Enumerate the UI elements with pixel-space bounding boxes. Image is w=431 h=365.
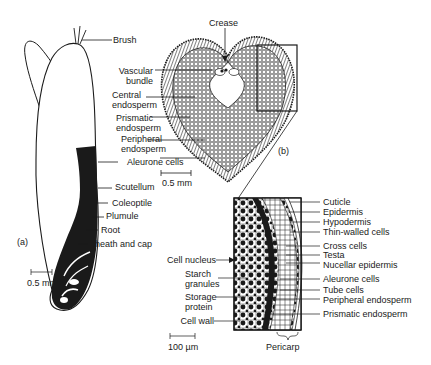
label-crease: Crease (209, 18, 238, 28)
label-starch: Starch (185, 269, 211, 279)
label-peripheral-endosperm-c: Peripheral endosperm (323, 295, 412, 305)
label-sheath-and-cap: Sheath and cap (89, 239, 152, 249)
label-peripheral-endosperm: endosperm (121, 144, 166, 154)
label-cell-nucleus: Cell nucleus (150, 255, 216, 265)
label-testa: Testa (323, 250, 345, 260)
label-prismatic-endosperm-c: Prismatic endosperm (323, 309, 408, 319)
panel-a-label: (a) (17, 237, 28, 247)
label-granules: granules (185, 279, 220, 289)
label-central-endosperm: endosperm (112, 100, 157, 110)
scale-c: 100 µm (168, 342, 198, 352)
label-prismatic: Prismatic (116, 113, 153, 123)
label-pericarp: Pericarp (266, 342, 300, 352)
label-cuticle: Cuticle (323, 197, 351, 207)
label-storage: Storage (185, 292, 217, 302)
scale-a: 0.5 mm (27, 278, 57, 288)
label-aleurone-cells-c: Aleurone cells (323, 274, 380, 284)
label-epidermis: Epidermis (323, 207, 363, 217)
label-vascular: Vascular (110, 66, 153, 76)
label-brush: Brush (113, 35, 137, 45)
grain-longitudinal (25, 26, 99, 310)
label-central: Central (112, 90, 141, 100)
label-coleoptile: Coleoptile (112, 198, 152, 208)
detail-enlargement (234, 198, 302, 330)
label-scutellum: Scutellum (115, 182, 155, 192)
label-root: Root (101, 225, 120, 235)
scale-b: 0.5 mm (162, 178, 192, 188)
label-tube-cells: Tube cells (323, 285, 364, 295)
grain-cross-section (162, 37, 312, 200)
label-cell-wall: Cell wall (150, 316, 214, 326)
label-peripheral: Peripheral (121, 134, 162, 144)
label-thin-walled-cells: Thin-walled cells (323, 227, 390, 237)
label-plumule: Plumule (106, 211, 139, 221)
label-protein: protein (185, 302, 213, 312)
label-prismatic-endosperm: endosperm (116, 123, 161, 133)
panel-b-label: (b) (278, 146, 289, 156)
label-nucellar-epidermis: Nucellar epidermis (323, 260, 398, 270)
label-aleurone-cells-a: Aleurone cells (127, 157, 184, 167)
label-hypodermis: Hypodermis (323, 217, 371, 227)
label-bundle: bundle (110, 76, 153, 86)
